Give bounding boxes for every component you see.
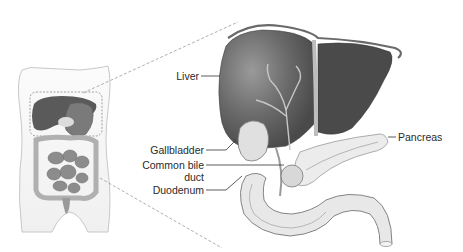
label-liver: Liver	[167, 71, 199, 82]
label-pancreas: Pancreas	[398, 132, 442, 143]
anatomy-diagram: Liver Gallbladder Common bile duct Duode…	[0, 0, 463, 252]
label-common-bile-duct-line1: Common bile	[136, 160, 204, 171]
torso-figure	[18, 66, 110, 232]
pancreas-illustration	[294, 134, 388, 186]
label-duodenum: Duodenum	[140, 185, 204, 196]
label-common-bile-duct-line2: duct	[160, 172, 204, 183]
label-gallbladder: Gallbladder	[140, 145, 204, 156]
